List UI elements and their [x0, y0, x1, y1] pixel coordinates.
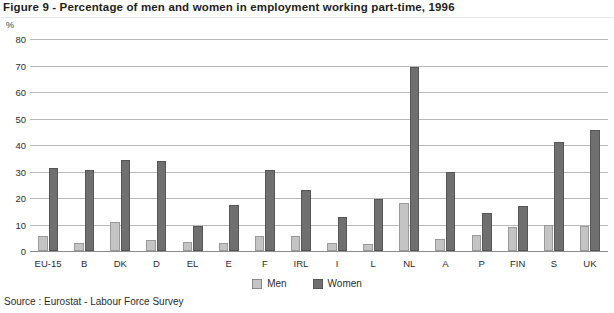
y-tick-label-70: 70	[0, 60, 26, 71]
y-tick-label-60: 60	[0, 87, 26, 98]
bar-group	[572, 39, 608, 251]
x-axis-labels: EU-15BDKDELEFIRLILNLAPFINSUK	[30, 258, 608, 274]
bars-layer	[30, 39, 608, 251]
bar-women-b	[85, 170, 95, 251]
x-tick-label-eu-15: EU-15	[35, 258, 62, 269]
legend-item-men[interactable]: Men	[252, 278, 286, 289]
x-tick-label-l: L	[371, 258, 376, 269]
x-tick-label-e: E	[226, 258, 232, 269]
bar-women-nl	[410, 67, 420, 251]
x-tick-label-i: I	[336, 258, 339, 269]
bar-group	[283, 39, 319, 251]
bar-group	[175, 39, 211, 251]
bar-men-irl	[291, 236, 301, 251]
x-tick-label-p: P	[478, 258, 484, 269]
x-tick-label-s: S	[551, 258, 557, 269]
bar-women-el	[193, 226, 203, 251]
bar-men-uk	[580, 226, 590, 251]
bar-group	[66, 39, 102, 251]
bar-women-d	[157, 161, 167, 251]
x-tick-label-b: B	[81, 258, 87, 269]
bar-men-dk	[110, 222, 120, 251]
y-tick-label-0: 0	[0, 246, 26, 257]
bar-men-fin	[508, 227, 518, 251]
bar-group	[211, 39, 247, 251]
y-tick-label-50: 50	[0, 113, 26, 124]
y-tick-label-80: 80	[0, 34, 26, 45]
bar-men-nl	[399, 203, 409, 251]
bar-men-f	[255, 236, 265, 251]
plot-area: 01020304050607080	[0, 33, 614, 255]
bar-group	[536, 39, 572, 251]
bar-group	[500, 39, 536, 251]
source-note: Source : Eurostat - Labour Force Survey	[4, 296, 184, 307]
bar-group	[102, 39, 138, 251]
bar-group	[247, 39, 283, 251]
page-title: Figure 9 - Percentage of men and women i…	[3, 1, 455, 13]
bar-group	[391, 39, 427, 251]
bar-men-e	[219, 243, 229, 251]
x-tick-label-fin: FIN	[510, 258, 525, 269]
bar-women-a	[446, 172, 456, 252]
bar-group	[427, 39, 463, 251]
y-axis-unit-label: %	[6, 20, 14, 30]
y-axis-ticks: 01020304050607080	[0, 39, 26, 251]
y-tick-label-20: 20	[0, 193, 26, 204]
legend-label-men: Men	[267, 278, 286, 289]
bar-women-s	[554, 142, 564, 251]
x-tick-label-a: A	[442, 258, 448, 269]
x-tick-label-irl: IRL	[294, 258, 309, 269]
bar-men-l	[363, 244, 373, 251]
bar-men-b	[74, 243, 84, 251]
y-tick-label-30: 30	[0, 166, 26, 177]
bar-women-l	[374, 199, 384, 251]
x-tick-label-el: EL	[187, 258, 199, 269]
bar-women-dk	[121, 160, 131, 251]
title-divider	[0, 17, 614, 18]
bar-men-el	[183, 242, 193, 251]
bar-men-p	[472, 235, 482, 251]
x-tick-label-nl: NL	[403, 258, 415, 269]
y-tick-label-10: 10	[0, 219, 26, 230]
bar-men-a	[435, 239, 445, 251]
y-tick-label-40: 40	[0, 140, 26, 151]
bar-women-uk	[590, 130, 600, 251]
bar-group	[355, 39, 391, 251]
bar-group	[30, 39, 66, 251]
x-tick-label-uk: UK	[583, 258, 596, 269]
bar-group	[138, 39, 174, 251]
bar-men-d	[146, 240, 156, 251]
bar-group	[464, 39, 500, 251]
x-tick-label-dk: DK	[114, 258, 127, 269]
bar-women-e	[229, 205, 239, 251]
figure-page: Figure 9 - Percentage of men and women i…	[0, 0, 614, 313]
legend-swatch-icon-men	[252, 279, 262, 289]
bar-women-i	[338, 217, 348, 251]
x-tick-label-d: D	[153, 258, 160, 269]
bar-men-i	[327, 243, 337, 251]
bar-men-eu-15	[38, 236, 48, 251]
legend-label-women: Women	[328, 278, 362, 289]
gridline-0	[30, 251, 608, 252]
legend-item-women[interactable]: Women	[313, 278, 362, 289]
bar-women-irl	[301, 190, 311, 251]
legend-swatch-icon-women	[313, 279, 323, 289]
bar-women-f	[265, 170, 275, 251]
bar-women-eu-15	[49, 168, 59, 251]
x-tick-label-f: F	[262, 258, 268, 269]
chart-legend: MenWomen	[0, 278, 614, 289]
bar-group	[319, 39, 355, 251]
bar-men-s	[544, 225, 554, 252]
bar-women-fin	[518, 206, 528, 251]
bar-women-p	[482, 213, 492, 251]
